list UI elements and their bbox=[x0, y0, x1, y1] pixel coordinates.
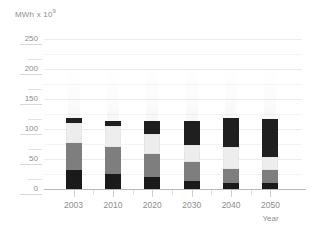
bar-stack[interactable] bbox=[144, 121, 160, 190]
y-tick-label: 100 bbox=[25, 124, 38, 134]
bar-segment[interactable] bbox=[262, 157, 278, 170]
bar-stack[interactable] bbox=[262, 119, 278, 190]
bar-segment[interactable] bbox=[262, 119, 278, 157]
plot-area bbox=[44, 40, 302, 190]
bar-segment[interactable] bbox=[66, 143, 82, 170]
x-tick bbox=[270, 190, 271, 197]
x-tick-label: 2040 bbox=[209, 200, 253, 210]
bar-segment[interactable] bbox=[223, 147, 239, 169]
x-tick-label: 2020 bbox=[130, 200, 174, 210]
x-tick bbox=[74, 190, 75, 197]
y-tick-mark-minor bbox=[28, 89, 42, 90]
y-tick-mark-minor bbox=[28, 179, 42, 180]
bar-stack[interactable] bbox=[184, 121, 200, 190]
bar-segment[interactable] bbox=[144, 154, 160, 177]
y-axis-title: MWh x 109 bbox=[15, 10, 56, 19]
bar-segment[interactable] bbox=[144, 121, 160, 134]
y-tick-label: 200 bbox=[25, 64, 38, 74]
bar-segment[interactable] bbox=[66, 170, 82, 190]
bar-group[interactable] bbox=[184, 40, 200, 190]
x-tick-minor bbox=[93, 190, 94, 195]
y-tick-mark bbox=[20, 194, 42, 195]
bar-segment[interactable] bbox=[184, 145, 200, 162]
x-tick-minor bbox=[172, 190, 173, 195]
y-tick-label: 50 bbox=[29, 154, 38, 164]
x-tick-minor bbox=[133, 190, 134, 195]
bar-group[interactable] bbox=[223, 40, 239, 190]
bar-segment[interactable] bbox=[105, 174, 121, 190]
x-tick-minor bbox=[211, 190, 212, 195]
y-tick-mark-minor bbox=[28, 59, 42, 60]
y-tick-label: 250 bbox=[25, 34, 38, 44]
bar-stack[interactable] bbox=[66, 118, 82, 190]
y-tick-label: 150 bbox=[25, 94, 38, 104]
stacked-bar-chart: MWh x 109 050100150200250 20032010202020… bbox=[0, 0, 312, 248]
bar-stack[interactable] bbox=[105, 121, 121, 190]
bar-group[interactable] bbox=[262, 40, 278, 190]
x-tick bbox=[192, 190, 193, 197]
x-tick-label: 2003 bbox=[52, 200, 96, 210]
bar-segment[interactable] bbox=[144, 134, 160, 154]
y-tick-mark bbox=[20, 134, 42, 135]
bar-segment[interactable] bbox=[105, 126, 121, 147]
y-axis-title-exponent: 9 bbox=[53, 8, 57, 14]
x-tick-label: 2030 bbox=[170, 200, 214, 210]
bar-group[interactable] bbox=[105, 40, 121, 190]
x-axis-baseline bbox=[44, 189, 306, 190]
y-tick-mark bbox=[20, 44, 42, 45]
bar-segment[interactable] bbox=[66, 123, 82, 143]
y-tick-mark bbox=[20, 74, 42, 75]
x-tick bbox=[113, 190, 114, 197]
bar-group[interactable] bbox=[66, 40, 82, 190]
bar-segment[interactable] bbox=[184, 121, 200, 145]
bar-segment[interactable] bbox=[105, 147, 121, 173]
y-axis-title-text: MWh x 10 bbox=[15, 10, 53, 19]
y-tick-mark-minor bbox=[28, 149, 42, 150]
y-tick-mark bbox=[20, 164, 42, 165]
y-tick-label: 0 bbox=[34, 184, 38, 194]
bar-segment[interactable] bbox=[223, 118, 239, 147]
x-tick-label: 2050 bbox=[248, 200, 292, 210]
x-tick-label: 2010 bbox=[91, 200, 135, 210]
x-tick-minor bbox=[251, 190, 252, 195]
bar-segment[interactable] bbox=[262, 170, 278, 183]
bar-segment[interactable] bbox=[223, 169, 239, 183]
bars-layer bbox=[44, 40, 302, 190]
x-tick bbox=[231, 190, 232, 197]
y-tick-mark bbox=[20, 104, 42, 105]
bar-segment[interactable] bbox=[184, 162, 200, 181]
x-axis-title: Year bbox=[248, 214, 292, 223]
y-tick-mark-minor bbox=[28, 119, 42, 120]
bar-group[interactable] bbox=[144, 40, 160, 190]
bar-stack[interactable] bbox=[223, 118, 239, 190]
x-tick bbox=[152, 190, 153, 197]
